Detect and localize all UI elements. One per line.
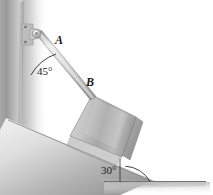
label-angle-30: 30° bbox=[101, 164, 116, 176]
label-point-b: B bbox=[85, 75, 94, 89]
bracket-bolt-top bbox=[24, 26, 27, 29]
figure-canvas: A B 45° 30° bbox=[0, 0, 213, 195]
label-point-a: A bbox=[54, 33, 63, 47]
pin-center bbox=[35, 32, 38, 35]
mechanics-figure: A B 45° 30° bbox=[0, 0, 213, 195]
label-angle-45: 45° bbox=[37, 65, 52, 77]
bracket-bolt-bottom bbox=[24, 41, 27, 44]
